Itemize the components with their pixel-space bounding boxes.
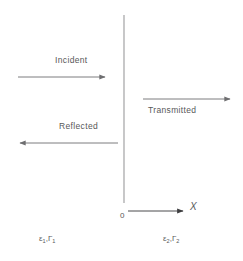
medium-1-permittivity-subscript: 1 [43,238,46,244]
diagram-canvas [0,0,243,261]
transmitted-label: Transmitted [148,106,196,115]
wave-interface-diagram: Incident Transmitted Reflected 0 X ε1,Γ1… [0,0,243,261]
reflected-label: Reflected [59,122,98,131]
medium-1-parameters: ε1,Γ1 [39,235,55,243]
incident-label: Incident [55,56,88,65]
medium-2-parameters: ε2,Γ2 [163,235,179,243]
medium-2-permittivity-subscript: 2 [167,238,170,244]
x-axis-label: X [190,202,197,212]
medium-2-reflection-subscript: 2 [176,238,179,244]
medium-1-reflection-subscript: 1 [52,238,55,244]
origin-label: 0 [120,212,125,220]
